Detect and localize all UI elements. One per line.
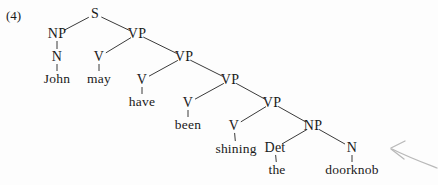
tree-edge-det-the	[276, 155, 277, 162]
tree-edge-vp1-vp2	[143, 37, 177, 53]
tree-node-the: the	[268, 163, 285, 177]
tree-node-vp1: VP	[128, 27, 146, 41]
tree-node-v4: V	[229, 119, 239, 133]
tree-edge-s-vp1	[101, 17, 129, 31]
tree-node-may: may	[87, 72, 111, 86]
example-number: (4)	[6, 9, 21, 22]
tree-node-n1: N	[52, 50, 62, 64]
tree-node-been: been	[175, 118, 201, 132]
tree-node-have: have	[129, 95, 155, 109]
tree-edge-vp2-vp3	[190, 60, 223, 76]
annotation-arrow-shaft	[392, 149, 437, 168]
tree-edge-s-np1	[64, 17, 89, 30]
tree-edge-vp4-np2	[278, 106, 306, 122]
tree-node-s: S	[91, 7, 99, 21]
tree-node-vp2: VP	[175, 50, 193, 64]
tree-edge-v4-shining	[235, 133, 236, 141]
tree-node-v3: V	[183, 96, 193, 110]
tree-node-np1: NP	[48, 27, 66, 41]
tree-node-v2: V	[137, 73, 147, 87]
tree-node-doorknob: doorknob	[325, 163, 378, 177]
tree-node-vp4: VP	[263, 96, 281, 110]
tree-edge-vp2-v2	[149, 60, 178, 76]
syntax-tree-figure: (4) SNPVPNVVPJohnmayVVPhaveVVPbeenVNPshi…	[0, 0, 438, 185]
annotation-arrow-head-lower	[391, 149, 404, 159]
tree-node-n2: N	[347, 141, 357, 155]
tree-edge-vp3-v3	[195, 83, 224, 99]
tree-node-john: John	[44, 72, 70, 86]
tree-edge-np2-n2	[319, 129, 345, 144]
tree-node-shining: shining	[215, 142, 256, 156]
tree-node-np2: NP	[304, 119, 322, 133]
tree-edge-vp3-vp4	[236, 83, 265, 99]
tree-node-det: Det	[265, 141, 286, 155]
tree-node-v1: V	[94, 50, 104, 64]
tree-node-vp3: VP	[221, 73, 239, 87]
annotation-arrow-head-upper	[391, 141, 405, 148]
